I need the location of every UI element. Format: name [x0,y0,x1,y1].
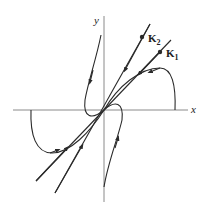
eigenvector-k1-label: K1 [166,47,179,62]
x-axis-label: x [190,103,196,115]
y-axis-label: y [93,14,99,26]
eigenvector-k2-point [140,35,144,39]
eigenvector-k2-line [55,24,150,193]
trajectory-lower-right [104,104,122,187]
eigenvector-k1-point [158,50,162,54]
eigenvector-k2-label: K2 [148,32,161,47]
trajectory-upper-left [85,35,104,116]
phase-portrait: x y K2 K1 [0,0,205,214]
